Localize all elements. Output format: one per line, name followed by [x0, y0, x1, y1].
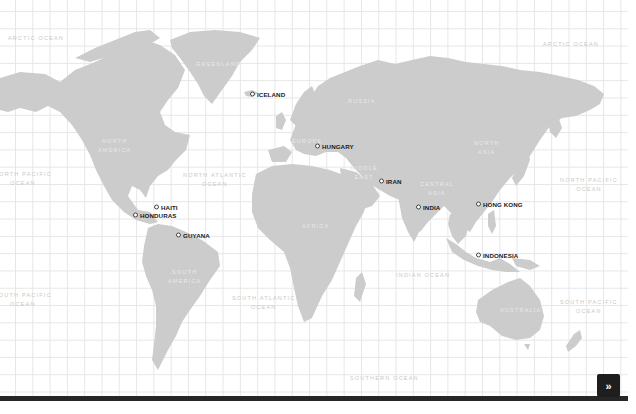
- new-zealand-shape: [566, 330, 582, 352]
- madagascar-shape: [354, 272, 366, 302]
- marker-hong-kong[interactable]: HONG KONG: [476, 201, 523, 208]
- location-dot-icon: [476, 202, 481, 207]
- marker-haiti[interactable]: HAITI: [154, 204, 178, 211]
- marker-label: ICELAND: [257, 91, 285, 98]
- philippines-shape: [488, 210, 496, 234]
- location-dot-icon: [176, 233, 181, 238]
- ocean-label-arctic-west: ARCTIC OCEAN: [8, 34, 64, 43]
- world-map: ARCTIC OCEAN ARCTIC OCEAN NORTH PACIFICO…: [0, 0, 628, 398]
- ocean-label-southern: SOUTHERN OCEAN: [350, 374, 419, 383]
- region-label-middle-east: MIDDLEEAST: [350, 164, 378, 182]
- location-dot-icon: [416, 205, 421, 210]
- marker-label: IRAN: [386, 178, 402, 185]
- marker-guyana[interactable]: GUYANA: [176, 232, 210, 239]
- location-dot-icon: [250, 92, 255, 97]
- land-masses: [0, 0, 628, 398]
- region-label-australia: AUSTRALIA: [500, 306, 541, 315]
- south-america-shape: [142, 224, 220, 370]
- marker-iceland[interactable]: ICELAND: [250, 91, 285, 98]
- region-label-russia: RUSSIA: [348, 97, 376, 106]
- north-america-shape: [0, 40, 190, 224]
- ocean-label-south-atlantic: SOUTH ATLANTICOCEAN: [232, 294, 295, 312]
- marker-label: INDIA: [423, 204, 440, 211]
- region-label-south-america: SOUTHAMERICA: [168, 268, 201, 286]
- ocean-label-south-pacific-west: SOUTH PACIFICOCEAN: [0, 291, 52, 309]
- location-dot-icon: [133, 213, 138, 218]
- ocean-label-north-pacific-east: NORTH PACIFICOCEAN: [560, 176, 618, 194]
- marker-label: INDONESIA: [483, 252, 518, 259]
- ocean-label-indian: INDIAN OCEAN: [396, 271, 450, 280]
- marker-label: GUYANA: [183, 232, 210, 239]
- ocean-label-south-pacific-east: SOUTH PACIFICOCEAN: [560, 298, 618, 316]
- marker-label: HONDURAS: [140, 212, 177, 219]
- location-dot-icon: [379, 179, 384, 184]
- marker-label: HAITI: [161, 204, 178, 211]
- uk-shape: [276, 112, 286, 130]
- region-label-north-asia: NORTHASIA: [474, 139, 499, 157]
- marker-label: HONG KONG: [483, 201, 523, 208]
- tasmania-shape: [524, 344, 530, 350]
- marker-honduras[interactable]: HONDURAS: [133, 212, 177, 219]
- location-dot-icon: [154, 205, 159, 210]
- ocean-label-north-pacific-west: NORTH PACIFICOCEAN: [0, 170, 52, 188]
- marker-indonesia[interactable]: INDONESIA: [476, 252, 518, 259]
- marker-india[interactable]: INDIA: [416, 204, 440, 211]
- bottom-divider-bar: [0, 396, 628, 401]
- ocean-label-north-atlantic: NORTH ATLANTICOCEAN: [183, 171, 247, 189]
- marker-iran[interactable]: IRAN: [379, 178, 402, 185]
- double-chevron-right-icon: »: [605, 380, 611, 392]
- next-button[interactable]: »: [597, 374, 620, 397]
- region-label-africa: AFRICA: [302, 222, 329, 231]
- marker-hungary[interactable]: HUNGARY: [315, 143, 354, 150]
- spain-shape: [268, 146, 292, 162]
- location-dot-icon: [476, 253, 481, 258]
- ocean-label-arctic-east: ARCTIC OCEAN: [543, 40, 599, 49]
- new-guinea-shape: [512, 258, 540, 270]
- marker-label: HUNGARY: [322, 143, 354, 150]
- region-label-greenland: GREENLAND: [196, 60, 241, 69]
- region-label-central-asia: CENTRALASIA: [420, 180, 454, 198]
- region-label-north-america: NORTHAMERICA: [98, 137, 131, 155]
- location-dot-icon: [315, 144, 320, 149]
